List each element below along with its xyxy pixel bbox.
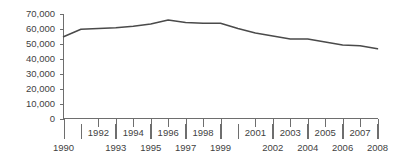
y-axis-tick-labels: 010,00020,00030,00040,00050,00060,00070,… (26, 8, 55, 124)
x-tick-label-upper: 2003 (280, 127, 301, 138)
y-tick-label: 20,000 (26, 83, 55, 94)
line-chart: 010,00020,00030,00040,00050,00060,00070,… (0, 0, 400, 159)
y-tick-label: 0 (50, 113, 55, 124)
y-tick-label: 30,000 (26, 68, 55, 79)
x-tick-label-upper: 2001 (245, 127, 266, 138)
x-tick-label-lower: 2004 (297, 142, 318, 153)
x-tick-label-lower: 1995 (140, 142, 161, 153)
x-tick-label-lower: 1997 (175, 142, 196, 153)
x-tick-label-lower: 2008 (367, 142, 388, 153)
x-tick-label-upper: 2007 (349, 127, 370, 138)
y-tick-label: 60,000 (26, 23, 55, 34)
x-tick-label-upper: 1996 (158, 127, 179, 138)
x-tick-label-lower: 1990 (53, 142, 74, 153)
x-tick-label-upper: 1998 (192, 127, 213, 138)
y-tick-label: 40,000 (26, 53, 55, 64)
x-tick-label-lower: 1993 (105, 142, 126, 153)
x-tick-label-upper: 1994 (123, 127, 144, 138)
x-tick-label-upper: 2005 (315, 127, 336, 138)
y-tick-label: 50,000 (26, 38, 55, 49)
chart-canvas: 010,00020,00030,00040,00050,00060,00070,… (0, 0, 400, 159)
y-tick-label: 10,000 (26, 98, 55, 109)
y-axis-tick-marks (60, 15, 64, 120)
x-tick-label-lower: 1999 (210, 142, 231, 153)
data-series-line (64, 20, 378, 49)
x-tick-label-lower: 2002 (262, 142, 283, 153)
x-tick-label-lower: 2006 (332, 142, 353, 153)
x-tick-label-upper: 1992 (88, 127, 109, 138)
y-tick-label: 70,000 (26, 8, 55, 19)
